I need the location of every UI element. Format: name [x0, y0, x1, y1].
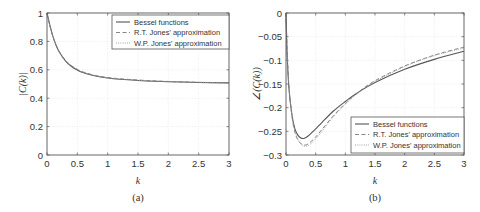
x-axis-label: k [373, 175, 378, 186]
y-tick-label: 0.8 [30, 36, 43, 47]
subfigure-caption: (b) [369, 192, 382, 204]
x-tick-label: 0.5 [71, 158, 84, 169]
y-tick-label: −0.2 [263, 102, 282, 113]
legend: Bessel functionsR.T. Jones' approximatio… [351, 117, 464, 153]
x-tick-label: 0 [44, 158, 49, 169]
x-axis-label: k [136, 175, 141, 186]
chart-a-magnitude: 00.511.522.5300.20.40.60.81Bessel functi… [17, 8, 232, 205]
chart-b-phase: 00.511.522.53−0.3−0.25−0.2−0.15−0.1−0.05… [251, 8, 467, 205]
y-tick-label: 0 [38, 150, 43, 161]
legend-label: W.P. Jones' approximation [373, 141, 461, 150]
figure: 00.511.522.5300.20.40.60.81Bessel functi… [0, 0, 480, 212]
legend-label: R.T. Jones' approximation [134, 28, 220, 37]
x-tick-label: 3 [461, 158, 466, 169]
x-tick-label: 0 [283, 158, 288, 169]
subfigure-caption: (a) [132, 192, 144, 204]
x-tick-label: 0.5 [309, 158, 322, 169]
x-tick-label: 1 [105, 158, 110, 169]
x-tick-label: 2 [402, 158, 407, 169]
y-tick-label: 1 [38, 8, 43, 19]
y-tick-label: 0 [277, 8, 282, 19]
x-tick-label: 3 [226, 158, 231, 169]
y-tick-label: −0.3 [263, 150, 282, 161]
legend-label: R.T. Jones' approximation [373, 130, 459, 139]
x-tick-label: 2.5 [192, 158, 205, 169]
x-tick-label: 1.5 [131, 158, 144, 169]
x-tick-label: 1 [343, 158, 348, 169]
y-tick-label: 0.2 [30, 121, 43, 132]
x-tick-label: 2 [166, 158, 171, 169]
y-axis-label: ∠(C(k)) [251, 67, 263, 101]
y-tick-label: 0.4 [30, 93, 43, 104]
y-tick-label: −0.05 [258, 31, 282, 42]
x-tick-label: 1.5 [368, 158, 381, 169]
y-tick-label: 0.6 [30, 64, 43, 75]
x-tick-label: 2.5 [428, 158, 441, 169]
y-tick-label: −0.1 [263, 55, 282, 66]
legend: Bessel functionsR.T. Jones' approximatio… [112, 15, 229, 49]
legend-label: Bessel functions [373, 120, 428, 129]
legend-label: Bessel functions [134, 18, 189, 27]
y-axis-label: |C(k)| [17, 72, 29, 95]
y-tick-label: −0.25 [258, 126, 282, 137]
legend-label: W.P. Jones' approximation [134, 39, 222, 48]
